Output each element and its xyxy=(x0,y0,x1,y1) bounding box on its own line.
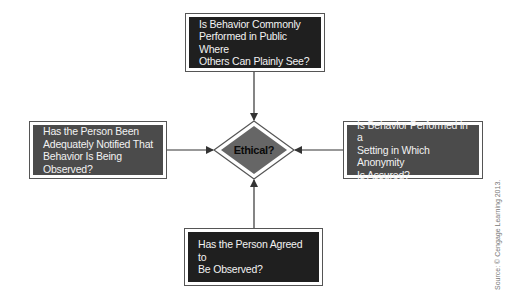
question-box-right: Is Behavior Performed in a Setting in Wh… xyxy=(343,121,483,179)
question-box-left: Has the Person Been Adequately Notified … xyxy=(29,121,167,179)
question-text-top: Is Behavior Commonly Performed in Public… xyxy=(199,18,311,68)
question-box-top: Is Behavior Commonly Performed in Public… xyxy=(185,13,325,72)
decision-label: Ethical? xyxy=(215,140,293,160)
question-box-bottom: Has the Person Agreed to Be Observed? xyxy=(184,228,323,286)
question-text-bottom: Has the Person Agreed to Be Observed? xyxy=(198,238,309,276)
question-text-left: Has the Person Been Adequately Notified … xyxy=(43,125,153,175)
source-credit: Source: © Cengage Learning 2013. xyxy=(494,180,501,290)
question-text-right: Is Behavior Performed in a Setting in Wh… xyxy=(357,119,469,182)
